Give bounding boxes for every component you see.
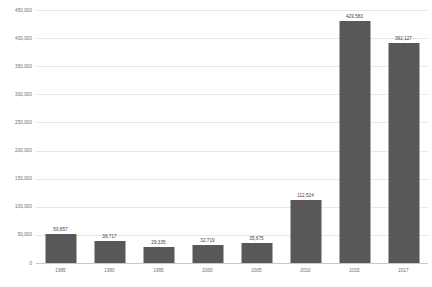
bar-value-label: 32,719: [200, 238, 214, 243]
bar-value-label: 392,127: [395, 36, 412, 41]
x-tick-label: 2010: [300, 268, 310, 274]
bar: [339, 21, 370, 263]
bar: [290, 200, 321, 263]
y-tick-label: 350,000: [0, 64, 32, 69]
y-tick-label: 450,000: [0, 8, 32, 13]
y-tick-label: 150,000: [0, 176, 32, 181]
bar-value-label: 429,583: [346, 14, 363, 19]
x-tick-label: 1990: [104, 268, 114, 274]
y-tick-label: 400,000: [0, 36, 32, 41]
bar-group: 32,719: [183, 10, 232, 263]
y-tick-label: 50,000: [0, 232, 32, 237]
bar-chart: 050,000100,000150,000200,000250,000300,0…: [0, 0, 432, 287]
y-tick-label: 200,000: [0, 148, 32, 153]
bar-group: 392,127: [379, 10, 428, 263]
bar: [45, 234, 76, 263]
x-tick-label: 2005: [251, 268, 261, 274]
x-tick-label: 1985: [55, 268, 65, 274]
bar-group: 429,583: [330, 10, 379, 263]
bar: [143, 247, 174, 263]
bar-value-label: 29,335: [151, 240, 165, 245]
bar: [192, 245, 223, 263]
bar-group: 112,524: [281, 10, 330, 263]
x-tick-label: 2015: [349, 268, 359, 274]
axis-baseline: [36, 263, 428, 264]
bar: [94, 241, 125, 263]
y-tick-label: 250,000: [0, 120, 32, 125]
bar-value-label: 50,857: [53, 227, 67, 232]
plot-area: 50,85738,71729,33532,71935,675112,524429…: [36, 10, 428, 263]
bar-group: 29,335: [134, 10, 183, 263]
x-tick-label: 2000: [202, 268, 212, 274]
bar-value-label: 38,717: [102, 234, 116, 239]
bar-group: 35,675: [232, 10, 281, 263]
bar-series: 50,85738,71729,33532,71935,675112,524429…: [36, 10, 428, 263]
bar-group: 38,717: [85, 10, 134, 263]
bar-group: 50,857: [36, 10, 85, 263]
y-tick-label: 100,000: [0, 204, 32, 209]
x-tick-label: 2017: [398, 268, 408, 274]
y-tick-label: 0: [0, 261, 32, 266]
bar: [241, 243, 272, 263]
x-tick-label: 1995: [153, 268, 163, 274]
bar: [388, 43, 419, 263]
bar-value-label: 35,675: [249, 236, 263, 241]
x-axis: 19851990199520002005201020152017: [36, 268, 428, 282]
y-tick-label: 300,000: [0, 92, 32, 97]
bar-value-label: 112,524: [297, 193, 314, 198]
